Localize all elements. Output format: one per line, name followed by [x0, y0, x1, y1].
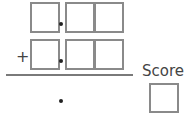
score-box[interactable] [149, 83, 179, 113]
answer-decimal-point [59, 99, 63, 103]
row2-hundredths-box[interactable] [94, 39, 124, 70]
row1-decimal-point [59, 22, 63, 26]
plus-operator: + [16, 49, 29, 65]
row2-ones-box[interactable] [30, 39, 60, 70]
row1-hundredths-box[interactable] [94, 2, 124, 33]
row1-tenths-box[interactable] [65, 2, 95, 33]
row2-tenths-box[interactable] [65, 39, 95, 70]
score-label: Score [142, 63, 184, 79]
row2-decimal-point [59, 59, 63, 63]
sum-line [6, 74, 133, 76]
row1-ones-box[interactable] [30, 2, 60, 33]
